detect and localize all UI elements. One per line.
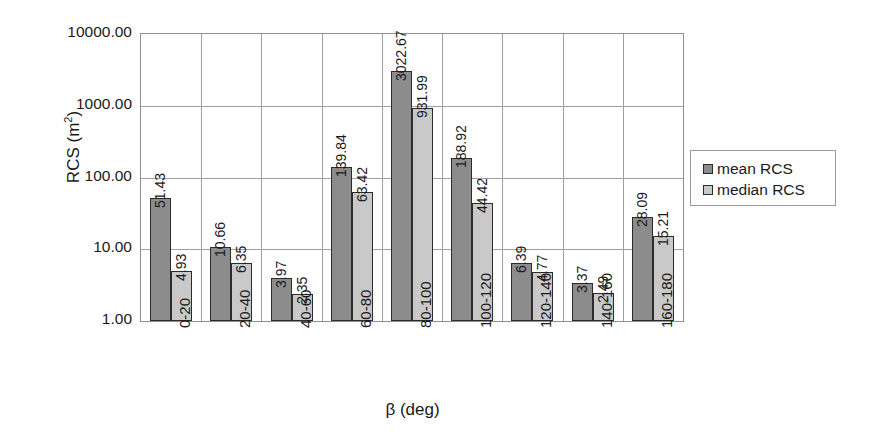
gridline-vertical [322,34,323,321]
bar-value-label: 6.35 [234,246,248,273]
legend-item-label: mean RCS [717,160,793,178]
x-axis-title: β (deg) [340,400,485,420]
legend-swatch-icon [703,164,713,174]
bar-value-label: 6.39 [514,246,528,273]
bar-mean [632,217,653,321]
bar-value-label: 28.09 [635,192,649,227]
x-axis-tick-label: 140-160 [599,273,614,328]
gridline-horizontal [141,106,683,107]
legend-item[interactable]: mean RCS [703,158,835,179]
x-axis-tick-label: 40-60 [298,290,313,328]
legend-swatch-icon [703,185,713,195]
gridline-vertical [442,34,443,321]
chart-legend: mean RCSmedian RCS [690,150,836,206]
y-axis-tick-label: 100.00 [20,167,132,185]
gridline-vertical [502,34,503,321]
bar-value-label: 51.43 [153,173,167,208]
bar-value-label: 44.42 [475,178,489,213]
bar-value-label: 188.92 [454,125,468,168]
bar-mean [451,158,472,321]
x-axis-tick-label: 160-180 [659,273,674,328]
y-axis-tick-label: 1.00 [20,310,132,328]
bar-value-label: 931.99 [415,75,429,118]
rcs-bar-chart: RCS (m2) 10000.001000.00100.0010.001.00 … [0,0,879,436]
gridline-vertical [261,34,262,321]
y-axis-tick-label: 1000.00 [20,95,132,113]
y-axis-tick-label: 10000.00 [20,23,132,41]
gridline-vertical [563,34,564,321]
bar-value-label: 4.93 [174,254,188,281]
x-axis-tick-label: 120-140 [538,273,553,328]
bar-value-label: 3.97 [274,261,288,288]
bar-mean [210,247,231,321]
x-axis-tick-label: 80-100 [418,281,433,328]
x-axis-tick-label: 100-120 [478,273,493,328]
bar-value-label: 3.37 [575,266,589,293]
bar-value-label: 3022.67 [394,31,408,82]
x-axis-tick-label: 20-40 [237,290,252,328]
bar-mean [150,198,171,321]
bar-mean [331,167,352,321]
y-axis-tick-label: 10.00 [20,238,132,256]
bar-value-label: 10.66 [213,222,227,257]
bar-value-label: 63.42 [355,167,369,202]
bar-value-label: 139.84 [334,134,348,177]
gridline-vertical [382,34,383,321]
legend-item[interactable]: median RCS [703,179,835,200]
legend-item-label: median RCS [717,181,805,199]
x-axis-tick-label: 0-20 [177,298,192,328]
bar-mean [391,71,412,321]
gridline-vertical [201,34,202,321]
bar-value-label: 15.21 [656,211,670,246]
x-axis-tick-label: 60-80 [358,290,373,328]
gridline-vertical [623,34,624,321]
y-axis-tick-labels: 10000.001000.00100.0010.001.00 [18,0,132,436]
